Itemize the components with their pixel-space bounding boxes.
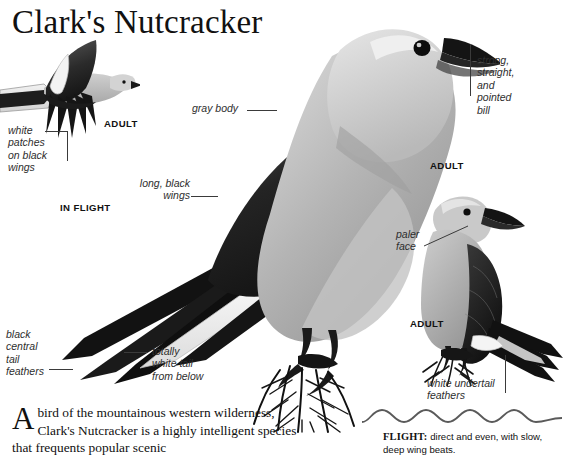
label-totally-white-tail: totally white tail from below <box>152 345 232 382</box>
leader-line-white-patches <box>45 131 67 132</box>
species-description-text: bird of the mountainous western wilderne… <box>12 405 296 455</box>
species-description-paragraph: Abird of the mountainous western wildern… <box>12 404 307 457</box>
leader-line-black-central-tail <box>49 369 73 370</box>
leader-line-white-patches-vertical <box>67 131 68 161</box>
flight-caption: FLIGHT: direct and even, with slow, deep… <box>383 431 565 456</box>
leader-line-totally-white-tail <box>124 352 148 353</box>
drop-cap: A <box>12 404 37 432</box>
caption-adult-flight: ADULT <box>104 118 138 129</box>
leader-line-gray-body <box>247 110 277 111</box>
flight-caption-heading: FLIGHT: <box>383 431 428 442</box>
leader-line-white-undertail <box>505 355 506 393</box>
flight-pattern-wave <box>362 406 560 432</box>
label-long-black-wings: long, black wings <box>124 177 190 202</box>
label-white-undertail: white undertail feathers <box>427 377 517 402</box>
leader-line-long-black-wings <box>191 196 218 197</box>
label-gray-body: gray body <box>192 102 238 114</box>
leader-line-paler-face <box>424 220 472 248</box>
label-strong-bill: strong, straight, and pointed bill <box>477 54 557 116</box>
bird-illustration-small-adult <box>415 186 565 386</box>
caption-in-flight: IN FLIGHT <box>60 202 111 213</box>
caption-adult-main: ADULT <box>430 160 464 171</box>
leader-line-bill <box>470 44 471 96</box>
label-black-central-tail: black central tail feathers <box>6 328 64 378</box>
caption-adult-small: ADULT <box>410 318 444 329</box>
field-guide-page: Clark's Nutcracker <box>0 0 565 457</box>
